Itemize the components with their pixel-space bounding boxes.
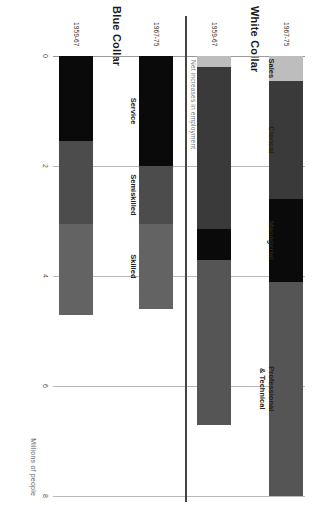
group-divider [185, 16, 187, 502]
category-label-professional-technical: Professional & Technical [258, 366, 275, 411]
gridline-8 [53, 496, 305, 497]
bar-blue-collar-1967-75[interactable] [139, 56, 173, 309]
bar-segment-skilled[interactable] [59, 224, 93, 315]
x-tick-label-4: 4 [42, 274, 49, 278]
bar-period-label-1967-75: 1967-75 [283, 22, 290, 47]
bar-period-label-1967-75: 1967-75 [153, 22, 160, 47]
bar-segment-managerial[interactable] [197, 229, 231, 259]
bar-period-label-1959-67: 1959-67 [211, 22, 218, 47]
bar-segment-semiskilled[interactable] [139, 166, 173, 224]
bar-segment-semiskilled[interactable] [59, 141, 93, 224]
bar-period-label-1959-67: 1959-67 [73, 22, 80, 47]
bar-segment-service[interactable] [59, 56, 93, 141]
category-label-clerical: Clerical [266, 126, 275, 153]
employment-stacked-bar-figure: Blue Collar White Collar Net increases i… [0, 0, 323, 529]
bar-segment-professional-&-technical[interactable] [197, 260, 231, 425]
x-tick-label-2: 2 [42, 164, 49, 168]
category-label-managerial: Managerial [266, 221, 275, 260]
bar-segment-sales[interactable] [197, 56, 231, 67]
plot-area: 02468Millions of people1959-671967-75Ser… [53, 56, 305, 496]
chart-screenshot: Blue Collar White Collar Net increases i… [0, 0, 323, 529]
category-label-skilled: Skilled [128, 254, 137, 278]
category-label-semiskilled: Semiskilled [128, 174, 137, 215]
category-label-sales: Sales [266, 59, 275, 79]
x-tick-label-8: 8 [42, 494, 49, 498]
bar-segment-skilled[interactable] [139, 224, 173, 309]
bar-blue-collar-1959-67[interactable] [59, 56, 93, 315]
x-tick-label-0: 0 [42, 54, 49, 58]
bar-white-collar-1959-67[interactable] [197, 56, 231, 425]
bar-white-collar-1967-75[interactable] [269, 56, 303, 496]
x-axis-title: Millions of people [30, 438, 37, 496]
bar-segment-clerical[interactable] [197, 67, 231, 229]
category-label-service: Service [128, 98, 137, 125]
bar-segment-service[interactable] [139, 56, 173, 166]
x-tick-label-6: 6 [42, 384, 49, 388]
